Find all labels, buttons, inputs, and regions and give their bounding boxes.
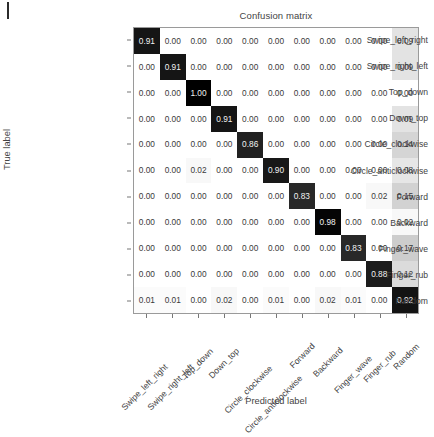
matrix-cell: 0.00 [134, 132, 160, 158]
matrix-cell: 0.86 [237, 132, 263, 158]
y-tick-mark [127, 170, 131, 171]
matrix-cell-value: 0.00 [165, 140, 181, 148]
matrix-cell: 0.00 [160, 158, 186, 184]
matrix-cell: 0.00 [263, 235, 289, 261]
matrix-cell-value: 0.00 [190, 218, 206, 226]
x-tick-mark [172, 314, 173, 318]
matrix-cell: 0.00 [160, 28, 186, 54]
matrix-cell: 0.00 [186, 54, 212, 80]
matrix-cell: 0.91 [211, 106, 237, 132]
matrix-cell-value: 0.91 [139, 37, 155, 45]
matrix-cell-value: 0.00 [139, 244, 155, 252]
matrix-cell-value: 0.00 [165, 89, 181, 97]
matrix-cell-value: 0.01 [268, 296, 284, 304]
matrix-cell-value: 0.02 [216, 296, 232, 304]
matrix-cell: 0.00 [211, 28, 237, 54]
matrix-cell-value: 0.00 [139, 270, 155, 278]
x-tick-mark [224, 314, 225, 318]
matrix-cell: 0.00 [263, 209, 289, 235]
y-tick-label: Finger_wave [306, 244, 434, 254]
y-tick-label: Circle_anticlockwise [306, 166, 434, 176]
y-axis-label: True label [2, 129, 12, 170]
matrix-cell: 0.00 [186, 287, 212, 313]
matrix-cell-value: 0.00 [216, 244, 232, 252]
matrix-cell-value: 0.00 [165, 37, 181, 45]
x-tick-mark [250, 314, 251, 318]
matrix-cell: 0.00 [186, 132, 212, 158]
chart-title: Confusion matrix [133, 10, 419, 21]
x-tick-mark [302, 314, 303, 318]
matrix-cell: 0.00 [211, 209, 237, 235]
y-tick-label: Random [306, 296, 434, 306]
matrix-cell: 0.00 [134, 261, 160, 287]
y-tick-label: Top_down [306, 87, 434, 97]
matrix-cell: 0.00 [134, 106, 160, 132]
y-tick-mark [127, 118, 131, 119]
matrix-cell-value: 0.00 [216, 89, 232, 97]
matrix-cell: 0.00 [211, 235, 237, 261]
matrix-cell: 0.00 [211, 80, 237, 106]
matrix-cell-value: 0.86 [242, 140, 258, 148]
matrix-cell: 0.00 [186, 183, 212, 209]
matrix-cell: 0.00 [186, 235, 212, 261]
y-tick-label: Circle_clockwise [306, 139, 434, 149]
matrix-cell: 0.00 [237, 261, 263, 287]
matrix-cell: 0.00 [160, 183, 186, 209]
x-tick-mark [380, 314, 381, 318]
y-tick-label: Finger_rub [306, 270, 434, 280]
matrix-cell: 0.00 [134, 158, 160, 184]
matrix-cell-value: 0.00 [190, 37, 206, 45]
matrix-cell: 0.00 [263, 106, 289, 132]
matrix-cell: 0.02 [186, 158, 212, 184]
matrix-cell: 0.00 [211, 261, 237, 287]
matrix-cell: 0.00 [237, 235, 263, 261]
y-tick-mark [127, 248, 131, 249]
matrix-cell-value: 0.01 [139, 296, 155, 304]
matrix-cell: 0.01 [263, 287, 289, 313]
matrix-cell-value: 0.00 [165, 244, 181, 252]
matrix-cell-value: 0.00 [216, 270, 232, 278]
matrix-cell-value: 1.00 [190, 89, 206, 97]
matrix-cell-value: 0.00 [139, 192, 155, 200]
matrix-cell: 0.00 [160, 106, 186, 132]
matrix-cell: 0.01 [160, 287, 186, 313]
y-tick-mark [127, 222, 131, 223]
matrix-cell-value: 0.00 [268, 37, 284, 45]
matrix-cell-value: 0.00 [268, 218, 284, 226]
matrix-cell: 0.00 [237, 80, 263, 106]
matrix-cell-value: 0.00 [242, 218, 258, 226]
matrix-cell-value: 0.01 [165, 296, 181, 304]
matrix-cell-value: 0.00 [139, 218, 155, 226]
matrix-cell: 0.00 [160, 235, 186, 261]
matrix-cell-value: 0.00 [242, 37, 258, 45]
matrix-cell: 0.00 [134, 209, 160, 235]
matrix-cell: 0.00 [237, 209, 263, 235]
matrix-cell: 0.00 [211, 132, 237, 158]
y-tick-label: Swipe_right_left [306, 61, 434, 71]
matrix-cell: 0.00 [237, 183, 263, 209]
y-tick-mark [127, 92, 131, 93]
matrix-cell-value: 0.00 [139, 115, 155, 123]
x-tick-mark [146, 314, 147, 318]
matrix-cell-value: 0.91 [216, 115, 232, 123]
matrix-cell-value: 0.00 [242, 192, 258, 200]
matrix-cell: 0.00 [263, 132, 289, 158]
x-tick-mark [406, 314, 407, 318]
matrix-cell-value: 0.00 [139, 63, 155, 71]
y-tick-mark [127, 66, 131, 67]
x-tick-mark [198, 314, 199, 318]
y-tick-mark [127, 40, 131, 41]
matrix-cell: 0.00 [160, 209, 186, 235]
matrix-cell: 0.00 [237, 106, 263, 132]
y-tick-label: Forward [306, 192, 434, 202]
matrix-cell-value: 0.00 [165, 115, 181, 123]
matrix-cell-value: 0.00 [139, 89, 155, 97]
matrix-cell-value: 0.00 [190, 140, 206, 148]
matrix-cell: 0.00 [186, 261, 212, 287]
matrix-cell: 0.00 [211, 54, 237, 80]
matrix-cell-value: 0.00 [268, 89, 284, 97]
matrix-cell-value: 0.00 [242, 270, 258, 278]
matrix-cell-value: 0.00 [139, 140, 155, 148]
matrix-cell: 0.00 [134, 80, 160, 106]
